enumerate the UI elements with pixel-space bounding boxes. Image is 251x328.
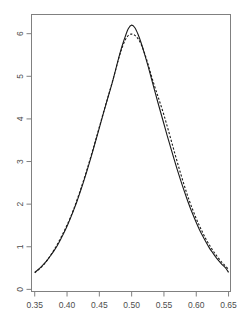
plot-background xyxy=(0,0,251,328)
y-tick-label: 5 xyxy=(16,74,26,79)
x-tick-label: 0.45 xyxy=(91,300,108,310)
x-tick-label: 0.55 xyxy=(156,300,173,310)
y-tick-label: 0 xyxy=(16,287,26,292)
x-tick-label: 0.65 xyxy=(220,300,237,310)
x-tick-label: 0.60 xyxy=(188,300,205,310)
plot-figure: 0.350.400.450.500.550.600.65 0123456 xyxy=(0,0,251,328)
plot-canvas: 0.350.400.450.500.550.600.65 0123456 xyxy=(0,0,251,328)
y-tick-label: 1 xyxy=(16,244,26,249)
y-tick-label: 4 xyxy=(16,116,26,121)
y-tick-label: 2 xyxy=(16,202,26,207)
y-tick-label: 6 xyxy=(16,31,26,36)
x-tick-label: 0.40 xyxy=(59,300,76,310)
x-tick-label: 0.50 xyxy=(123,300,140,310)
x-tick-label: 0.35 xyxy=(26,300,43,310)
y-tick-label: 3 xyxy=(16,159,26,164)
